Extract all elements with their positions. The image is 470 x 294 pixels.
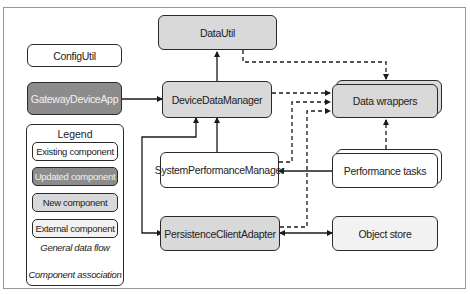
data-util-label: DataUtil	[200, 27, 235, 39]
legend-existing-component: Existing component	[32, 142, 118, 161]
legend-external-label: External component	[35, 223, 114, 234]
config-util-label: ConfigUtil	[53, 50, 96, 62]
legend-general-data-flow: General data flow	[27, 242, 123, 253]
object-store-label: Object store	[358, 228, 411, 240]
legend-title: Legend	[27, 128, 123, 140]
legend-new-component: New component	[32, 193, 118, 212]
legend-updated-component: Updated component	[32, 167, 118, 186]
legend-component-association: Component association	[27, 269, 123, 280]
device-data-manager-box: DeviceDataManager	[162, 81, 272, 118]
data-wrappers-box: Data wrappers	[332, 84, 438, 118]
legend-updated-label: Updated component	[35, 171, 115, 182]
assoc-spm-to-wrappers	[279, 102, 330, 162]
legend-new-label: New component	[43, 197, 108, 208]
assoc-datautil-to-wrappers	[243, 50, 386, 79]
legend-external-component: External component	[32, 219, 118, 238]
device-data-manager-label: DeviceDataManager	[172, 94, 263, 106]
system-performance-manager-box: SystemPerformanceManager	[160, 152, 279, 188]
config-util-box: ConfigUtil	[27, 44, 122, 67]
gateway-device-app-box: GatewayDeviceApp	[27, 82, 122, 115]
legend: Legend Existing component Updated compon…	[26, 124, 124, 286]
performance-tasks-box: Performance tasks	[332, 153, 438, 188]
performance-tasks-label: Performance tasks	[344, 165, 426, 177]
system-performance-manager-label: SystemPerformanceManager	[155, 164, 284, 176]
persistence-client-adapter-box: PersistenceClientAdapter	[160, 216, 280, 251]
object-store-box: Object store	[332, 216, 438, 251]
data-util-box: DataUtil	[158, 15, 277, 50]
legend-existing-label: Existing component	[36, 146, 114, 157]
persistence-client-adapter-label: PersistenceClientAdapter	[164, 228, 275, 240]
assoc-pca-to-wrappers	[280, 111, 330, 227]
data-wrappers-label: Data wrappers	[353, 95, 417, 107]
gateway-device-app-label: GatewayDeviceApp	[31, 93, 118, 105]
